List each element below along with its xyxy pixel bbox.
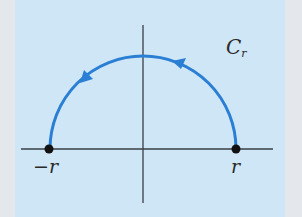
contour-diagram xyxy=(0,0,302,217)
label-neg-r: −r xyxy=(33,155,58,177)
point-neg-r xyxy=(45,145,54,154)
arrow-icon xyxy=(172,58,186,69)
point-pos-r xyxy=(232,145,241,154)
label-pos-r: r xyxy=(231,155,240,177)
curve-label: Cr xyxy=(226,35,247,60)
